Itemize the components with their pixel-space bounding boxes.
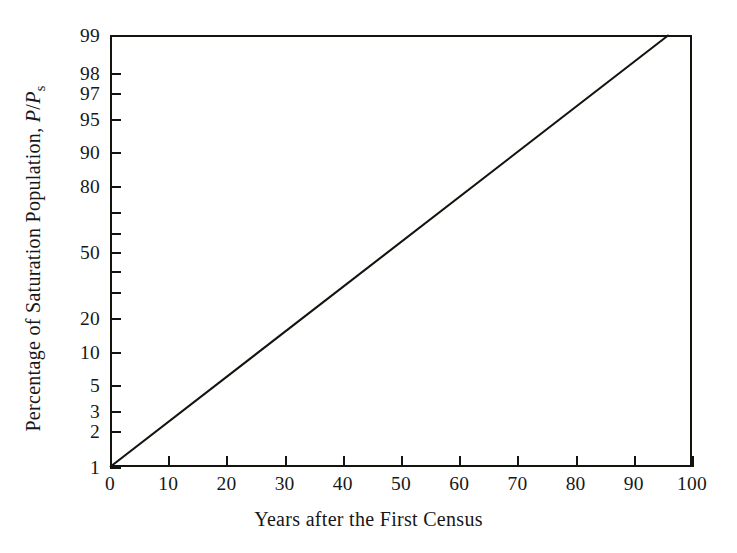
data-line-layer	[110, 35, 692, 467]
x-tick-label-30: 30	[253, 474, 317, 494]
y-tick-99	[110, 35, 121, 37]
y-tick-label-2: 2	[54, 422, 100, 442]
y-tick-97	[110, 93, 121, 95]
chart-figure: 99 98 97 95 90 80 50 20 10 5 3 2 1 0 10 …	[0, 0, 737, 553]
x-tick-label-40: 40	[311, 474, 375, 494]
y-tick-40	[110, 271, 121, 273]
y-tick-50	[110, 252, 121, 254]
y-tick-3	[110, 411, 121, 413]
y-tick-label-20: 20	[54, 309, 100, 329]
x-tick-label-70: 70	[485, 474, 549, 494]
y-tick-label-98: 98	[54, 64, 100, 84]
x-tick-label-10: 10	[136, 474, 200, 494]
x-tick-20	[226, 456, 228, 467]
y-tick-98	[110, 73, 121, 75]
y-tick-5	[110, 385, 121, 387]
y-tick-90	[110, 152, 121, 154]
y-axis-title: Percentage of Saturation Population, P/P…	[22, 24, 49, 494]
y-axis-symbol-denominator: P	[22, 91, 44, 104]
y-axis-symbol-separator: /	[22, 104, 44, 110]
y-axis-title-text: Percentage of Saturation Population,	[22, 122, 44, 431]
y-tick-95	[110, 119, 121, 121]
x-tick-label-60: 60	[427, 474, 491, 494]
x-tick-10	[168, 456, 170, 467]
y-tick-80	[110, 186, 121, 188]
x-tick-0	[110, 456, 112, 467]
x-tick-40	[343, 456, 345, 467]
x-tick-30	[285, 456, 287, 467]
x-axis-title: Years after the First Census	[0, 508, 737, 531]
y-tick-label-90: 90	[54, 143, 100, 163]
y-axis-symbol-numerator: P	[22, 110, 44, 123]
x-tick-70	[517, 456, 519, 467]
y-tick-2	[110, 431, 121, 433]
logistic-growth-line	[110, 35, 669, 467]
x-tick-60	[459, 456, 461, 467]
y-tick-1	[110, 467, 121, 469]
y-tick-label-3: 3	[54, 402, 100, 422]
x-tick-label-20: 20	[194, 474, 258, 494]
y-tick-label-10: 10	[54, 343, 100, 363]
y-tick-label-97: 97	[54, 84, 100, 104]
x-tick-label-90: 90	[602, 474, 666, 494]
y-axis-symbol-subscript: s	[32, 85, 48, 91]
y-tick-20	[110, 318, 121, 320]
x-tick-label-0: 0	[78, 474, 142, 494]
x-tick-label-50: 50	[369, 474, 433, 494]
y-tick-label-50: 50	[54, 243, 100, 263]
x-tick-90	[634, 456, 636, 467]
y-tick-10	[110, 352, 121, 354]
y-tick-label-99: 99	[54, 26, 100, 46]
y-tick-30	[110, 292, 121, 294]
y-tick-label-80: 80	[54, 177, 100, 197]
y-tick-label-95: 95	[54, 110, 100, 130]
x-tick-100	[692, 456, 694, 467]
y-tick-70	[110, 212, 121, 214]
x-tick-80	[576, 456, 578, 467]
x-tick-50	[401, 456, 403, 467]
x-tick-label-80: 80	[544, 474, 608, 494]
y-tick-label-5: 5	[54, 376, 100, 396]
y-tick-60	[110, 233, 121, 235]
x-tick-label-100: 100	[660, 474, 724, 494]
